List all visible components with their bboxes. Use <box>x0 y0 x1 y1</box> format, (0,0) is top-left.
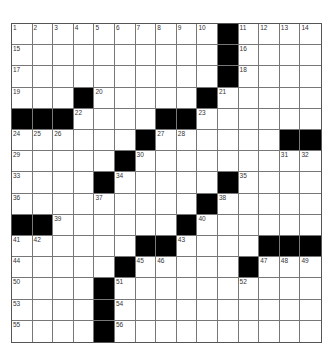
grid-cell[interactable] <box>239 109 260 130</box>
grid-cell[interactable]: 8 <box>156 24 177 45</box>
grid-cell[interactable] <box>115 66 136 87</box>
grid-cell[interactable]: 21 <box>218 88 239 109</box>
grid-cell[interactable]: 25 <box>33 130 54 151</box>
grid-cell[interactable] <box>156 300 177 321</box>
grid-cell[interactable] <box>74 257 95 278</box>
grid-cell[interactable] <box>115 109 136 130</box>
grid-cell[interactable] <box>74 321 95 342</box>
grid-cell[interactable] <box>197 66 218 87</box>
grid-cell[interactable] <box>300 172 321 193</box>
grid-cell[interactable] <box>136 321 157 342</box>
grid-cell[interactable] <box>33 321 54 342</box>
grid-cell[interactable]: 19 <box>12 88 33 109</box>
grid-cell[interactable]: 32 <box>300 151 321 172</box>
grid-cell[interactable] <box>239 215 260 236</box>
grid-cell[interactable] <box>136 109 157 130</box>
grid-cell[interactable] <box>156 215 177 236</box>
grid-cell[interactable] <box>74 130 95 151</box>
grid-cell[interactable] <box>239 194 260 215</box>
grid-cell[interactable] <box>259 151 280 172</box>
grid-cell[interactable] <box>156 321 177 342</box>
grid-cell[interactable]: 3 <box>53 24 74 45</box>
grid-cell[interactable] <box>177 278 198 299</box>
grid-cell[interactable] <box>177 172 198 193</box>
grid-cell[interactable] <box>218 130 239 151</box>
grid-cell[interactable] <box>177 151 198 172</box>
grid-cell[interactable] <box>115 130 136 151</box>
grid-cell[interactable] <box>300 278 321 299</box>
grid-cell[interactable] <box>74 236 95 257</box>
grid-cell[interactable] <box>300 88 321 109</box>
grid-cell[interactable] <box>300 215 321 236</box>
grid-cell[interactable]: 1 <box>12 24 33 45</box>
grid-cell[interactable]: 56 <box>115 321 136 342</box>
grid-cell[interactable] <box>259 194 280 215</box>
grid-cell[interactable]: 55 <box>12 321 33 342</box>
grid-cell[interactable] <box>259 130 280 151</box>
grid-cell[interactable] <box>280 300 301 321</box>
grid-cell[interactable]: 54 <box>115 300 136 321</box>
grid-cell[interactable] <box>53 194 74 215</box>
grid-cell[interactable] <box>74 300 95 321</box>
grid-cell[interactable] <box>53 257 74 278</box>
grid-cell[interactable] <box>53 236 74 257</box>
grid-cell[interactable] <box>300 66 321 87</box>
grid-cell[interactable] <box>177 321 198 342</box>
grid-cell[interactable]: 2 <box>33 24 54 45</box>
grid-cell[interactable] <box>218 109 239 130</box>
grid-cell[interactable]: 31 <box>280 151 301 172</box>
grid-cell[interactable]: 39 <box>53 215 74 236</box>
grid-cell[interactable] <box>218 151 239 172</box>
grid-cell[interactable] <box>136 215 157 236</box>
grid-cell[interactable]: 22 <box>74 109 95 130</box>
grid-cell[interactable] <box>53 45 74 66</box>
grid-cell[interactable]: 36 <box>12 194 33 215</box>
grid-cell[interactable] <box>177 66 198 87</box>
grid-cell[interactable]: 17 <box>12 66 33 87</box>
grid-cell[interactable] <box>197 236 218 257</box>
grid-cell[interactable] <box>115 45 136 66</box>
grid-cell[interactable]: 50 <box>12 278 33 299</box>
grid-cell[interactable] <box>94 130 115 151</box>
grid-cell[interactable] <box>300 109 321 130</box>
grid-cell[interactable]: 43 <box>177 236 198 257</box>
grid-cell[interactable] <box>218 215 239 236</box>
grid-cell[interactable] <box>280 215 301 236</box>
grid-cell[interactable] <box>115 215 136 236</box>
grid-cell[interactable]: 44 <box>12 257 33 278</box>
grid-cell[interactable] <box>33 66 54 87</box>
grid-cell[interactable] <box>218 278 239 299</box>
grid-cell[interactable] <box>136 194 157 215</box>
grid-cell[interactable] <box>136 172 157 193</box>
grid-cell[interactable] <box>259 45 280 66</box>
grid-cell[interactable] <box>300 194 321 215</box>
grid-cell[interactable] <box>156 172 177 193</box>
grid-cell[interactable] <box>94 236 115 257</box>
grid-cell[interactable]: 20 <box>94 88 115 109</box>
grid-cell[interactable] <box>218 321 239 342</box>
grid-cell[interactable] <box>177 88 198 109</box>
grid-cell[interactable] <box>156 194 177 215</box>
grid-cell[interactable] <box>33 151 54 172</box>
grid-cell[interactable]: 9 <box>177 24 198 45</box>
grid-cell[interactable]: 29 <box>12 151 33 172</box>
grid-cell[interactable]: 34 <box>115 172 136 193</box>
grid-cell[interactable] <box>74 66 95 87</box>
grid-cell[interactable]: 15 <box>12 45 33 66</box>
grid-cell[interactable] <box>197 151 218 172</box>
grid-cell[interactable] <box>136 300 157 321</box>
grid-cell[interactable] <box>259 109 280 130</box>
grid-cell[interactable]: 42 <box>33 236 54 257</box>
grid-cell[interactable] <box>239 130 260 151</box>
grid-cell[interactable]: 13 <box>280 24 301 45</box>
grid-cell[interactable]: 33 <box>12 172 33 193</box>
grid-cell[interactable] <box>94 45 115 66</box>
grid-cell[interactable] <box>239 300 260 321</box>
grid-cell[interactable] <box>197 172 218 193</box>
grid-cell[interactable] <box>156 278 177 299</box>
grid-cell[interactable]: 38 <box>218 194 239 215</box>
grid-cell[interactable]: 6 <box>115 24 136 45</box>
grid-cell[interactable]: 49 <box>300 257 321 278</box>
grid-cell[interactable] <box>74 45 95 66</box>
grid-cell[interactable] <box>136 66 157 87</box>
